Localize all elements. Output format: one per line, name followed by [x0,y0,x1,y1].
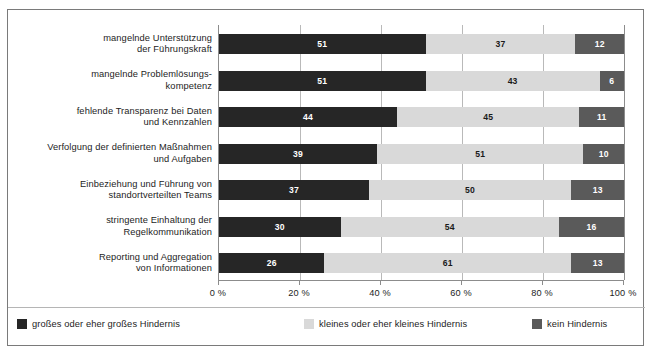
plot-area: 5137125143644451139511037501330541626611… [218,25,625,280]
bar-value-label: 43 [426,76,600,86]
bar-value-label: 37 [426,39,576,49]
x-axis-tick [218,280,219,285]
category-label: mangelnde Problemlösungs-kompetenz [16,69,212,91]
category-label-line: mangelnde Unterstützung [16,33,212,44]
x-axis-tick-label: 20 % [269,288,329,298]
category-label-line: und Kennzahlen [16,117,212,128]
x-axis-tick [461,280,462,285]
x-axis-tick-label: 0 % [188,288,248,298]
x-axis-tick-label: 60 % [431,288,491,298]
bar-value-label: 51 [219,39,426,49]
category-label-line: mangelnde Problemlösungs- [16,69,212,80]
category-label-line: Regelkommunikation [16,227,212,238]
bar-row: 51436 [219,71,624,91]
bar-row: 513712 [219,34,624,54]
bar-value-label: 61 [324,258,571,268]
bar-value-label: 45 [397,112,579,122]
bar-value-label: 10 [583,149,624,159]
plot-region: mangelnde Unterstützungder Führungskraft… [8,10,645,295]
bar-value-label: 44 [219,112,397,122]
bar-value-label: 12 [575,39,624,49]
legend-label: großes oder eher großes Hindernis [32,319,180,329]
bar-segment: 50 [369,180,572,200]
legend-swatch-icon [532,319,542,329]
category-label: mangelnde Unterstützungder Führungskraft [16,33,212,55]
bar-value-label: 6 [600,76,624,86]
legend-item-grosses-hindernis: großes oder eher großes Hindernis [17,319,180,329]
category-label-line: von Informationen [16,263,212,274]
bar-row: 395110 [219,144,624,164]
bar-segment: 61 [324,253,571,273]
x-axis-tick [380,280,381,285]
bar-row: 305416 [219,217,624,237]
bar-segment: 6 [600,71,624,91]
bar-segment: 10 [583,144,624,164]
x-axis-tick [542,280,543,285]
bar-segment: 37 [426,34,576,54]
bar-value-label: 13 [571,185,624,195]
bar-row: 444511 [219,107,624,127]
x-axis-line [218,280,624,281]
category-label: Reporting und Aggregationvon Information… [16,252,212,274]
bar-segment: 26 [219,253,324,273]
category-label-line: stringente Einhaltung der [16,215,212,226]
x-axis-tick-label: 40 % [350,288,410,298]
x-axis-tick [623,280,624,285]
bar-segment: 30 [219,217,341,237]
category-label: Einbeziehung und Führung vonstandortvert… [16,179,212,201]
bar-value-label: 54 [341,222,560,232]
bar-row: 375013 [219,180,624,200]
x-axis-tick-label: 80 % [512,288,572,298]
bar-value-label: 11 [579,112,624,122]
category-label: Verfolgung der definierten Maßnahmenund … [16,142,212,164]
bar-segment: 51 [219,34,426,54]
category-label-line: und Aufgaben [16,154,212,165]
bar-segment: 51 [219,71,426,91]
bar-segment: 11 [579,107,624,127]
legend-label: kein Hindernis [547,319,607,329]
category-label-line: kompetenz [16,81,212,92]
bar-segment: 16 [559,217,624,237]
legend-label: kleines oder eher kleines Hindernis [319,319,467,329]
bar-segment: 13 [571,253,624,273]
bar-value-label: 26 [219,258,324,268]
bar-segment: 51 [377,144,584,164]
category-label: stringente Einhaltung derRegelkommunikat… [16,215,212,237]
bar-value-label: 37 [219,185,369,195]
legend-item-kleines-hindernis: kleines oder eher kleines Hindernis [304,319,467,329]
bar-segment: 13 [571,180,624,200]
bar-value-label: 50 [369,185,572,195]
bar-segment: 12 [575,34,624,54]
bar-segment: 43 [426,71,600,91]
bar-segment: 37 [219,180,369,200]
legend-divider [8,307,645,308]
bar-segment: 54 [341,217,560,237]
bar-segment: 45 [397,107,579,127]
x-axis-tick [299,280,300,285]
legend-item-kein-hindernis: kein Hindernis [532,319,607,329]
bar-segment: 39 [219,144,377,164]
gridline [624,25,625,280]
bar-value-label: 51 [219,76,426,86]
category-label-line: Reporting und Aggregation [16,252,212,263]
category-label-line: fehlende Transparenz bei Daten [16,106,212,117]
bar-segment: 44 [219,107,397,127]
legend-swatch-icon [304,319,314,329]
x-axis-tick-label: 100 % [593,288,653,298]
legend-swatch-icon [17,319,27,329]
category-label-line: Einbeziehung und Führung von [16,179,212,190]
bar-value-label: 16 [559,222,624,232]
category-label-line: der Führungskraft [16,44,212,55]
category-label-line: standortverteilten Teams [16,190,212,201]
bar-value-label: 13 [571,258,624,268]
bar-value-label: 51 [377,149,584,159]
chart-figure: mangelnde Unterstützungder Führungskraft… [7,9,644,346]
category-label-line: Verfolgung der definierten Maßnahmen [16,142,212,153]
category-label: fehlende Transparenz bei Datenund Kennza… [16,106,212,128]
bar-value-label: 39 [219,149,377,159]
bar-value-label: 30 [219,222,341,232]
bar-row: 266113 [219,253,624,273]
